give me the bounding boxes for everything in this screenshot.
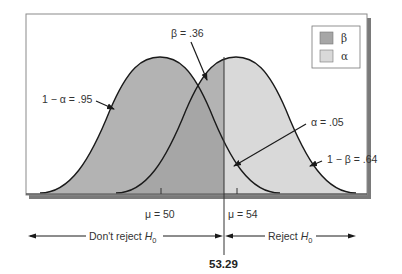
svg-text:Don't reject H0: Don't reject H0 [89,230,156,245]
legend-label-alpha: α [341,50,348,62]
frame-shadow-right [367,18,371,199]
critical-value-label: 53.29 [209,258,238,270]
reject-region: Reject H0 [225,230,356,245]
svg-text:1 − β = .64: 1 − β = .64 [327,153,378,165]
svg-text:α = .05: α = .05 [311,116,344,128]
svg-text:Reject H0: Reject H0 [268,230,312,245]
hypothesis-test-diagram: β α 1 − α = .95 β = .36 α = .05 1 − β = … [0,0,402,274]
hypothesis-subscript-reject: 0 [308,236,312,245]
mu0-label: μ = 50 [145,208,175,220]
reject-label: Reject [268,230,301,242]
legend-swatch-beta [320,32,333,44]
hypothesis-subscript: 0 [152,236,156,245]
legend-swatch-alpha [320,50,333,62]
dont-reject-label: Don't reject [89,230,145,242]
svg-text:β = .36: β = .36 [171,27,204,39]
frame-shadow-bottom [29,195,371,199]
legend: β α [312,26,360,68]
mu1-label: μ = 54 [228,208,258,220]
dont-reject-region: Don't reject H0 [28,230,223,245]
legend-label-beta: β [341,32,347,44]
svg-text:1 − α = .95: 1 − α = .95 [42,93,93,105]
